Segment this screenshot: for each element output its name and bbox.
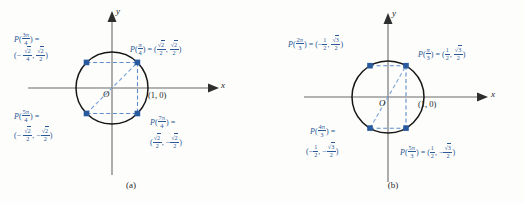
- x-axis-arrowhead: [477, 93, 488, 102]
- label-five-pi-over-4-coords: (− √22, −√22): [14, 128, 52, 143]
- coord-y-sqrt3-2: √32: [327, 144, 336, 159]
- label-three-pi-over-4-coords: (− √24, √22): [14, 48, 48, 63]
- coord-y-sqrt2-2: √22: [36, 48, 45, 63]
- label-pi-over-3: P(π3) = (12, √32): [418, 46, 465, 62]
- origin-label: O: [103, 89, 110, 99]
- panel-a-quarter-pi-points: x y O (1, 0) P(3π4) = (− √24, √22) P(π4)…: [0, 0, 262, 203]
- angle-fraction-5pi-4: 5π4: [22, 108, 30, 123]
- label-four-pi-over-3-coords: (−12, −√32): [306, 144, 338, 159]
- x-axis-label: x: [221, 80, 225, 90]
- x-axis-arrowhead: [208, 84, 219, 93]
- point-three-pi-over-4: [84, 60, 90, 66]
- angle-fraction-2pi-3: 2π3: [296, 36, 304, 51]
- point-pi-over-4: [135, 60, 141, 66]
- angle-fraction-4pi-3: 4π3: [318, 123, 326, 138]
- label-two-pi-over-3: P(2π3) = (−12, √32): [288, 36, 343, 52]
- coord-y-sqrt2-2: √22: [41, 128, 50, 143]
- label-four-pi-over-3-head: P(4π3) =: [310, 123, 335, 138]
- panel-a-graphic: [0, 0, 262, 203]
- y-axis-label: y: [116, 6, 120, 16]
- caption-b: (b): [262, 180, 524, 190]
- point-pi-over-3: [403, 63, 409, 69]
- angle-fraction-5pi-3: 5π3: [408, 144, 416, 159]
- angle-fraction-3pi-4: 3π4: [22, 31, 30, 46]
- label-seven-pi-over-4-head: P(7π4) =: [150, 114, 175, 129]
- x-axis-label: x: [491, 89, 495, 99]
- coord-x-sqrt2-2: √22: [157, 42, 166, 57]
- label-seven-pi-over-4-coords: (√22, −√22): [150, 135, 182, 150]
- origin-label: O: [379, 98, 386, 108]
- label-five-pi-over-3: P(5π3) = (12, −√32): [400, 144, 455, 160]
- panel-b-graphic: [262, 0, 524, 203]
- caption-a: (a): [0, 180, 262, 190]
- unit-point-label: (1, 0): [148, 90, 166, 100]
- coord-x-sqrt2-2: √22: [23, 128, 32, 143]
- point-four-pi-over-3: [367, 125, 373, 131]
- panel-b-third-pi-points: x y O (1, 0) P(2π3) = (−12, √32) P(π3) =…: [262, 0, 524, 203]
- y-axis-label: y: [392, 8, 396, 18]
- point-two-pi-over-3: [367, 63, 373, 69]
- label-three-pi-over-4-head: P(3π4) =: [14, 31, 39, 46]
- point-five-pi-over-3: [403, 125, 409, 131]
- unit-point-label: (1, 0): [418, 99, 436, 109]
- point-seven-pi-over-4: [135, 111, 141, 117]
- equals-sign: =: [35, 35, 40, 44]
- coord-x-sqrt2-2: √24: [23, 48, 32, 63]
- label-pi-over-4: P(π4) = (√22, √22): [130, 41, 181, 57]
- unit-circle-figure: x y O (1, 0) P(3π4) = (− √24, √22) P(π4)…: [0, 0, 524, 203]
- label-five-pi-over-4-head: P(5π4) =: [14, 108, 39, 123]
- point-five-pi-over-4: [84, 111, 90, 117]
- minus-x: −: [17, 51, 22, 60]
- coord-y-sqrt2-2: √22: [170, 42, 179, 57]
- coord-y-sqrt3-2: √32: [454, 47, 463, 62]
- coord-y-sqrt2-2: √22: [170, 135, 179, 150]
- angle-fraction-7pi-4: 7π4: [158, 114, 166, 129]
- coord-x-sqrt2-2: √22: [153, 135, 162, 150]
